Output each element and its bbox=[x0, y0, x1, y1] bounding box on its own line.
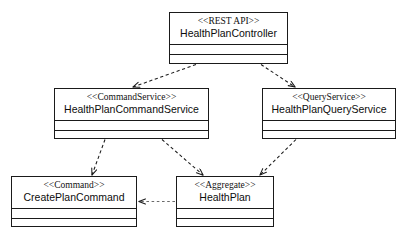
class-attributes-compartment bbox=[263, 121, 395, 131]
edge-controller-to-query-service bbox=[261, 65, 295, 88]
class-header: <<REST API>> HealthPlanController bbox=[170, 13, 287, 45]
class-stereotype: <<CommandService>> bbox=[59, 92, 204, 103]
class-stereotype: <<Aggregate>> bbox=[181, 180, 269, 191]
class-stereotype: <<REST API>> bbox=[174, 16, 283, 27]
class-name: HealthPlan bbox=[181, 191, 269, 204]
class-name: CreatePlanCommand bbox=[16, 191, 132, 204]
edge-command-service-to-create-plan-command bbox=[92, 140, 105, 176]
edge-query-service-to-health-plan bbox=[260, 140, 296, 176]
uml-class-health-plan-command-service[interactable]: <<CommandService>> HealthPlanCommandServ… bbox=[54, 88, 209, 139]
uml-class-create-plan-command[interactable]: <<Command>> CreatePlanCommand bbox=[11, 176, 137, 227]
class-operations-compartment bbox=[177, 219, 273, 228]
class-operations-compartment bbox=[55, 131, 208, 140]
uml-class-health-plan-controller[interactable]: <<REST API>> HealthPlanController bbox=[169, 12, 288, 64]
class-attributes-compartment bbox=[177, 209, 273, 219]
class-name: HealthPlanQueryService bbox=[267, 103, 391, 116]
class-attributes-compartment bbox=[12, 209, 136, 219]
class-operations-compartment bbox=[263, 131, 395, 140]
uml-class-health-plan[interactable]: <<Aggregate>> HealthPlan bbox=[176, 176, 274, 227]
class-header: <<Command>> CreatePlanCommand bbox=[12, 177, 136, 209]
class-operations-compartment bbox=[170, 55, 287, 64]
edge-command-service-to-health-plan bbox=[162, 140, 203, 176]
class-attributes-compartment bbox=[170, 45, 287, 55]
class-stereotype: <<Command>> bbox=[16, 180, 132, 191]
edge-controller-to-command-service bbox=[133, 65, 196, 88]
class-operations-compartment bbox=[12, 219, 136, 228]
class-stereotype: <<QueryService>> bbox=[267, 92, 391, 103]
class-name: HealthPlanCommandService bbox=[59, 103, 204, 116]
class-name: HealthPlanController bbox=[174, 27, 283, 40]
figure-caption-strip bbox=[0, 233, 403, 239]
class-attributes-compartment bbox=[55, 121, 208, 131]
class-header: <<CommandService>> HealthPlanCommandServ… bbox=[55, 89, 208, 121]
uml-class-diagram-canvas: <<REST API>> HealthPlanController <<Comm… bbox=[0, 0, 403, 239]
class-header: <<QueryService>> HealthPlanQueryService bbox=[263, 89, 395, 121]
uml-class-health-plan-query-service[interactable]: <<QueryService>> HealthPlanQueryService bbox=[262, 88, 396, 139]
class-header: <<Aggregate>> HealthPlan bbox=[177, 177, 273, 209]
